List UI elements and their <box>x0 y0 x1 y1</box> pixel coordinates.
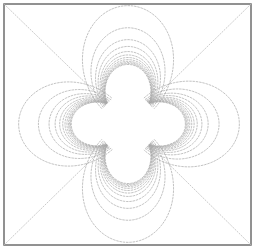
field-line-plot <box>0 0 254 248</box>
central-circle <box>99 95 157 153</box>
